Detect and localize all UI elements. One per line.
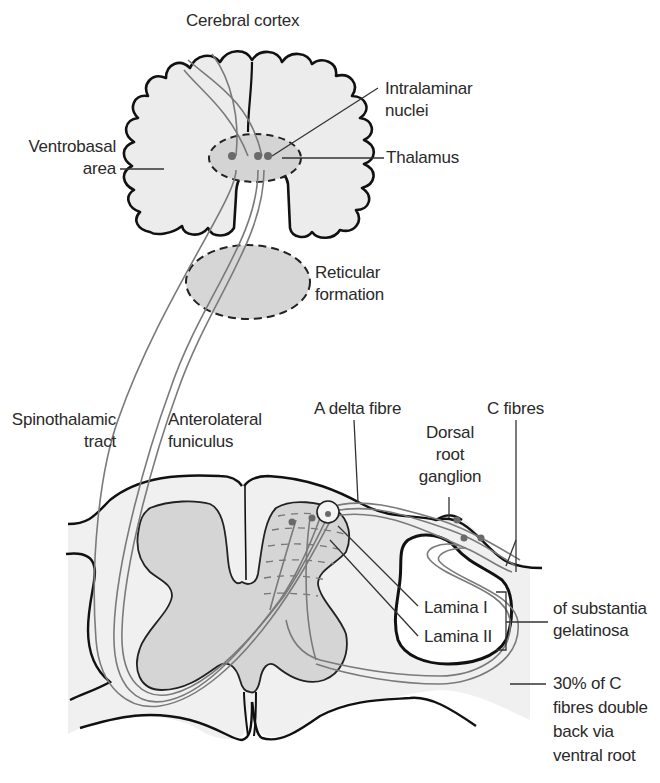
label-line: ventral root (553, 744, 648, 768)
label-line: tract (4, 431, 116, 453)
label-ventrobasal-area: Ventrobasal area (10, 136, 116, 180)
label-line: Ventrobasal (10, 136, 116, 158)
pain-pathway-diagram (0, 0, 660, 783)
label-c-fibres: C fibres (487, 398, 544, 420)
label-line: of substantia (553, 598, 647, 620)
label-anterolateral-funiculus: Anterolateral funiculus (168, 409, 262, 453)
reticular-formation-region (186, 245, 310, 319)
label-line: Spinothalamic (4, 409, 116, 431)
label-line: area (10, 158, 116, 180)
label-line: funiculus (168, 431, 262, 453)
label-line: nuclei (385, 100, 472, 122)
label-a-delta-fibre: A delta fibre (314, 398, 401, 420)
label-line: Dorsal (414, 422, 486, 444)
label-substantia-gelatinosa: of substantia gelatinosa (553, 598, 647, 642)
label-line: Anterolateral (168, 409, 262, 431)
label-line: gelatinosa (553, 620, 647, 642)
label-c-fibres-double-back: 30% of C fibres double back via ventral … (553, 672, 648, 768)
label-spinothalamic-tract: Spinothalamic tract (4, 409, 116, 453)
label-line: ganglion (414, 466, 486, 488)
label-line: root (414, 444, 486, 466)
label-lamina-i: Lamina I (424, 597, 488, 619)
label-line: Reticular (315, 262, 384, 284)
label-thalamus: Thalamus (386, 147, 459, 169)
label-line: Intralaminar (385, 78, 472, 100)
label-line: formation (315, 284, 384, 306)
label-lamina-ii: Lamina II (424, 626, 492, 648)
label-line: fibres double (553, 696, 648, 720)
label-reticular-formation: Reticular formation (315, 262, 384, 306)
label-line: back via (553, 720, 648, 744)
label-dorsal-root-ganglion: Dorsal root ganglion (414, 422, 486, 488)
label-cerebral-cortex: Cerebral cortex (186, 10, 299, 32)
label-line: 30% of C (553, 672, 648, 696)
label-intralaminar-nuclei: Intralaminar nuclei (385, 78, 472, 122)
